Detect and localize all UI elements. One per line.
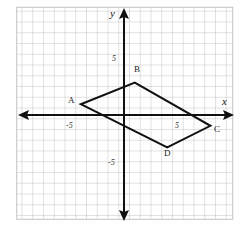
- vertex-label-d: D: [164, 149, 171, 158]
- x-axis-label: x: [222, 96, 227, 107]
- x-tick-label-negative-5: -5: [66, 122, 73, 130]
- vertex-label-b: B: [134, 65, 140, 74]
- x-tick-label-positive-5: 5: [175, 122, 179, 130]
- y-axis-label: y: [110, 8, 115, 19]
- y-tick-label-negative-5: -5: [108, 159, 115, 167]
- vertex-label-c: C: [214, 125, 220, 134]
- vertex-label-a: A: [68, 96, 75, 105]
- coordinate-plane-svg: [0, 0, 249, 234]
- y-tick-label-positive-5: 5: [112, 55, 116, 63]
- figure-canvas: y x 5 -5 -5 5 A B C D: [0, 0, 249, 234]
